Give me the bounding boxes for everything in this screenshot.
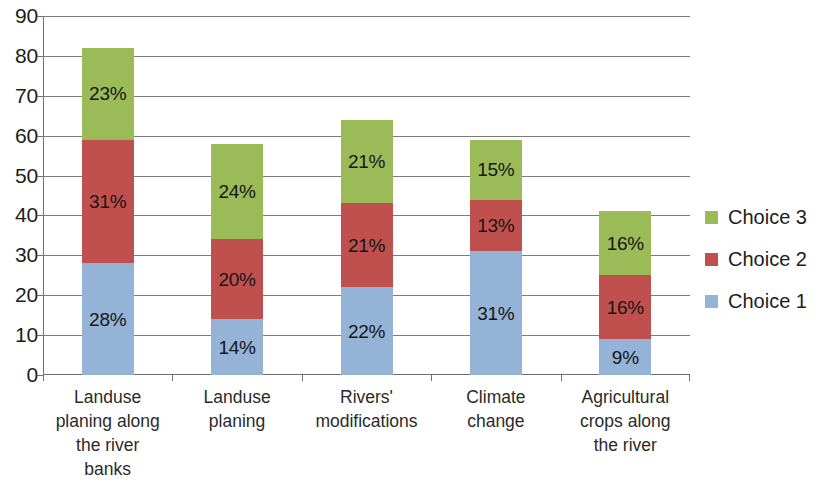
y-axis-tick-label: 90 (4, 5, 38, 26)
gridline (43, 16, 690, 17)
bar-segment-value-label: 23% (89, 84, 126, 103)
x-axis-category-label-line: Landuse (172, 385, 301, 409)
x-axis-category-label-line: planing along (43, 409, 172, 433)
bar-segment[interactable]: 20% (211, 239, 263, 319)
y-axis-tick-label: 20 (4, 284, 38, 305)
x-axis-category-label-line: Landuse (43, 385, 172, 409)
y-axis-tick-mark (37, 176, 43, 177)
bar-segment[interactable]: 24% (211, 144, 263, 240)
bar-segment-value-label: 14% (219, 338, 256, 357)
y-axis-line (43, 16, 44, 375)
x-axis-tick-mark (561, 375, 562, 381)
bar-segment[interactable]: 21% (341, 120, 393, 204)
bar-segment[interactable]: 14% (211, 319, 263, 375)
y-axis-tick-label: 10 (4, 324, 38, 345)
bar-column[interactable]: 21%21%22% (341, 120, 393, 375)
y-axis-tick-mark (37, 255, 43, 256)
bar-segment-value-label: 31% (89, 192, 126, 211)
bar-segment-value-label: 24% (219, 182, 256, 201)
legend-color-swatch-icon (705, 253, 718, 266)
bar-segment[interactable]: 9% (599, 339, 651, 375)
legend-item-label: Choice 1 (728, 291, 807, 311)
legend-item[interactable]: Choice 3 (705, 196, 820, 238)
bar-segment-value-label: 31% (477, 304, 514, 323)
y-axis-tick-label: 80 (4, 45, 38, 66)
x-axis-category-label: Agriculturalcrops alongthe river (561, 385, 690, 457)
x-axis-category-label-line: change (431, 409, 560, 433)
y-axis-tick-mark (37, 335, 43, 336)
x-axis-category-label-line: Agricultural (561, 385, 690, 409)
bar-segment-value-label: 13% (477, 216, 514, 235)
x-axis-category-label: Landuseplaning alongthe riverbanks (43, 385, 172, 481)
x-axis-category-label-line: Climate (431, 385, 560, 409)
chart-legend: Choice 3Choice 2Choice 1 (705, 196, 820, 322)
bar-segment[interactable]: 28% (82, 263, 134, 375)
x-axis-tick-mark (172, 375, 173, 381)
x-axis-category-labels: Landuseplaning alongthe riverbanksLandus… (43, 385, 690, 485)
x-axis-category-label-line: Rivers' (302, 385, 431, 409)
bar-segment[interactable]: 31% (470, 251, 522, 375)
legend-color-swatch-icon (705, 295, 718, 308)
legend-item[interactable]: Choice 1 (705, 280, 820, 322)
x-axis-category-label-line: the river (43, 433, 172, 457)
plot-area: 23%31%28%24%20%14%21%21%22%15%13%31%16%1… (43, 16, 690, 375)
bar-segment-value-label: 16% (607, 234, 644, 253)
bar-segment[interactable]: 16% (599, 211, 651, 275)
x-axis-tick-mark (431, 375, 432, 381)
bar-column[interactable]: 24%20%14% (211, 144, 263, 375)
x-axis-tick-mark (302, 375, 303, 381)
x-axis-category-label: Climatechange (431, 385, 560, 433)
x-axis-tick-mark (43, 375, 44, 381)
bar-segment-value-label: 21% (348, 152, 385, 171)
y-axis-tick-label: 0 (4, 364, 38, 385)
bar-segment[interactable]: 22% (341, 287, 393, 375)
y-axis-tick-label: 30 (4, 244, 38, 265)
bar-segment[interactable]: 21% (341, 203, 393, 287)
bar-column[interactable]: 16%16%9% (599, 211, 651, 375)
bar-segment-value-label: 16% (607, 298, 644, 317)
y-axis-tick-mark (37, 136, 43, 137)
x-axis-tick-mark (689, 375, 690, 381)
bar-column[interactable]: 23%31%28% (82, 48, 134, 375)
gridline (43, 56, 690, 57)
y-axis-tick-mark (37, 96, 43, 97)
bar-segment-value-label: 21% (348, 236, 385, 255)
y-axis-tick-label: 40 (4, 204, 38, 225)
y-axis-tick-mark (37, 295, 43, 296)
bar-segment[interactable]: 13% (470, 200, 522, 252)
bar-segment-value-label: 22% (348, 322, 385, 341)
bar-column[interactable]: 15%13%31% (470, 140, 522, 375)
y-axis-tick-label: 50 (4, 165, 38, 186)
y-axis: 0102030405060708090 (0, 0, 38, 490)
y-axis-tick-label: 60 (4, 125, 38, 146)
bar-segment-value-label: 20% (219, 270, 256, 289)
legend-item[interactable]: Choice 2 (705, 238, 820, 280)
x-axis-category-label: Rivers'modifications (302, 385, 431, 433)
x-axis-category-label-line: the river (561, 433, 690, 457)
x-axis-category-label-line: planing (172, 409, 301, 433)
legend-item-label: Choice 2 (728, 249, 807, 269)
legend-color-swatch-icon (705, 211, 718, 224)
y-axis-tick-label: 70 (4, 85, 38, 106)
bar-segment-value-label: 9% (612, 348, 639, 367)
x-axis-category-label-line: modifications (302, 409, 431, 433)
legend-item-label: Choice 3 (728, 207, 807, 227)
y-axis-tick-mark (37, 16, 43, 17)
gridline (43, 96, 690, 97)
bar-segment-value-label: 15% (477, 160, 514, 179)
bar-segment-value-label: 28% (89, 310, 126, 329)
x-axis-category-label-line: crops along (561, 409, 690, 433)
bar-segment[interactable]: 16% (599, 275, 651, 339)
bar-segment[interactable]: 15% (470, 140, 522, 200)
x-axis-category-label-line: banks (43, 457, 172, 481)
stacked-bar-chart: 0102030405060708090 23%31%28%24%20%14%21… (0, 0, 824, 490)
x-axis-category-label: Landuseplaning (172, 385, 301, 433)
y-axis-tick-mark (37, 56, 43, 57)
y-axis-tick-mark (37, 215, 43, 216)
bar-segment[interactable]: 31% (82, 140, 134, 264)
bar-segment[interactable]: 23% (82, 48, 134, 140)
